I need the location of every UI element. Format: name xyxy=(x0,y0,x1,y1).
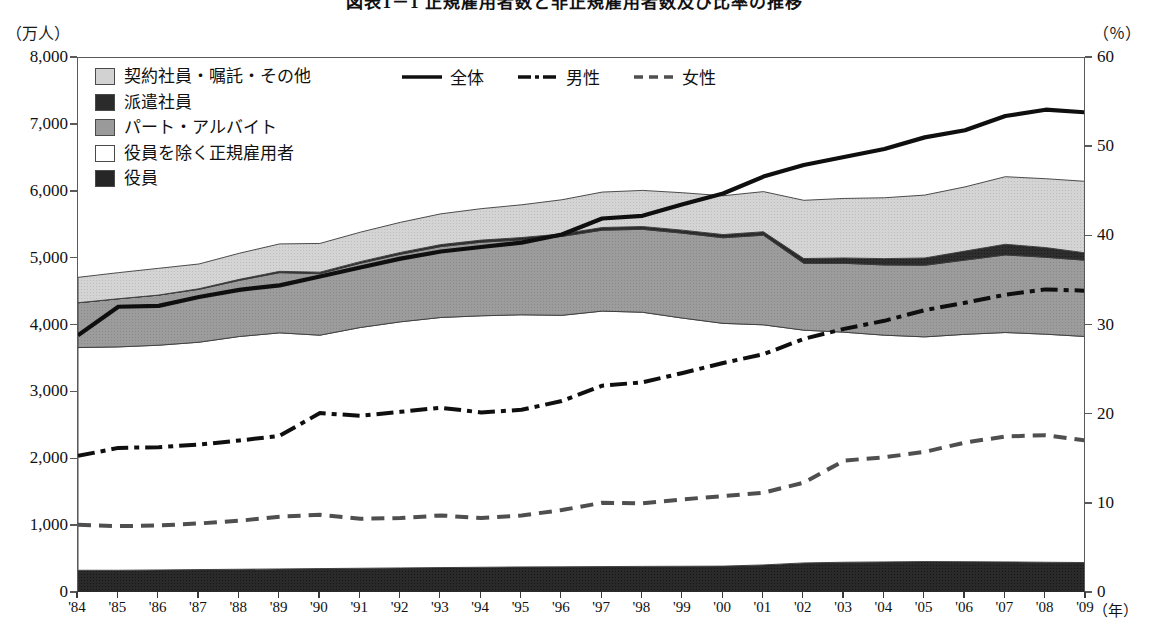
x-tick-mark xyxy=(238,592,239,598)
legend-line-dash-dot-icon xyxy=(518,72,558,82)
legend-swatch-icon xyxy=(95,145,115,162)
x-tick-mark xyxy=(883,592,884,598)
right-tick-label: 50 xyxy=(1097,136,1149,156)
left-tick-label: 7,000 xyxy=(0,114,68,134)
x-tick-mark xyxy=(439,592,440,598)
legend-areas: 契約社員・嘱託・その他派遣社員パート・アルバイト役員を除く正規雇用者役員 xyxy=(95,64,311,192)
x-tick-label: '91 xyxy=(350,599,368,616)
legend-item-派遣社員[interactable]: 派遣社員 xyxy=(95,90,311,116)
legend-item-label: 契約社員・嘱託・その他 xyxy=(124,64,311,90)
right-tick-mark xyxy=(1085,324,1092,326)
x-tick-mark xyxy=(601,592,602,598)
left-tick-label: 6,000 xyxy=(0,181,68,201)
x-tick-mark xyxy=(359,592,360,598)
left-axis-unit: （万人） xyxy=(6,20,70,44)
legend-line-dashed-icon xyxy=(634,72,674,82)
chart-title: 図表1－1 正規雇用者数と非正規雇用者数及び比率の推移 xyxy=(0,0,1149,10)
x-tick-mark xyxy=(1084,592,1085,598)
legend-line-label: 女性 xyxy=(682,64,716,89)
x-tick-mark xyxy=(560,592,561,598)
x-tick-mark xyxy=(1044,592,1045,598)
x-tick-label: '05 xyxy=(915,599,933,616)
legend-item-役員を除く正規雇用者[interactable]: 役員を除く正規雇用者 xyxy=(95,141,311,167)
x-tick-mark xyxy=(278,592,279,598)
right-tick-mark xyxy=(1085,145,1092,147)
right-tick-label: 40 xyxy=(1097,225,1149,245)
left-tick-mark xyxy=(70,524,77,526)
x-tick-mark xyxy=(117,592,118,598)
legend-line-solid-icon xyxy=(402,72,442,82)
x-tick-mark xyxy=(480,592,481,598)
x-tick-mark xyxy=(520,592,521,598)
x-tick-label: '02 xyxy=(794,599,812,616)
x-tick-mark xyxy=(681,592,682,598)
legend-swatch-icon xyxy=(95,170,115,187)
x-tick-label: '09 xyxy=(1076,599,1094,616)
right-tick-label: 10 xyxy=(1097,493,1149,513)
right-tick-mark xyxy=(1085,591,1092,593)
x-tick-label: '08 xyxy=(1036,599,1054,616)
x-tick-label: '97 xyxy=(592,599,610,616)
right-tick-mark xyxy=(1085,235,1092,237)
x-tick-label: '01 xyxy=(754,599,772,616)
x-tick-mark xyxy=(802,592,803,598)
x-tick-mark xyxy=(318,592,319,598)
x-tick-label: '04 xyxy=(875,599,893,616)
x-tick-label: '92 xyxy=(391,599,409,616)
legend-swatch-icon xyxy=(95,94,115,111)
legend-item-label: 派遣社員 xyxy=(124,90,192,116)
legend-item-label: 役員 xyxy=(124,166,158,192)
x-tick-mark xyxy=(842,592,843,598)
x-tick-mark xyxy=(762,592,763,598)
legend-line-item-男性[interactable]: 男性 xyxy=(518,64,600,89)
left-tick-label: 3,000 xyxy=(0,381,68,401)
x-tick-label: '95 xyxy=(512,599,530,616)
legend-item-label: パート・アルバイト xyxy=(124,115,277,141)
right-tick-label: 30 xyxy=(1097,315,1149,335)
x-tick-label: '89 xyxy=(270,599,288,616)
legend-item-契約社員・嘱託・その他[interactable]: 契約社員・嘱託・その他 xyxy=(95,64,311,90)
x-tick-mark xyxy=(963,592,964,598)
x-tick-label: '88 xyxy=(229,599,247,616)
left-tick-label: 5,000 xyxy=(0,248,68,268)
x-axis-unit: （年） xyxy=(1093,599,1138,620)
right-axis-unit: （％） xyxy=(1093,20,1141,44)
left-tick-mark xyxy=(70,123,77,125)
x-tick-mark xyxy=(197,592,198,598)
x-tick-label: '96 xyxy=(552,599,570,616)
x-tick-label: '93 xyxy=(431,599,449,616)
x-tick-label: '07 xyxy=(996,599,1014,616)
left-tick-mark xyxy=(70,324,77,326)
x-tick-mark xyxy=(76,592,77,598)
x-tick-label: '87 xyxy=(189,599,207,616)
left-tick-mark xyxy=(70,190,77,192)
x-tick-mark xyxy=(399,592,400,598)
x-tick-label: '06 xyxy=(955,599,973,616)
x-tick-mark xyxy=(722,592,723,598)
x-tick-mark xyxy=(1004,592,1005,598)
x-tick-mark xyxy=(157,592,158,598)
legend-lines: 全体男性女性 xyxy=(402,64,716,90)
legend-line-label: 男性 xyxy=(566,64,600,89)
left-tick-mark xyxy=(70,56,77,58)
x-tick-label: '00 xyxy=(713,599,731,616)
x-tick-label: '03 xyxy=(834,599,852,616)
right-tick-mark xyxy=(1085,413,1092,415)
x-tick-mark xyxy=(923,592,924,598)
x-tick-label: '86 xyxy=(149,599,167,616)
right-tick-mark xyxy=(1085,502,1092,504)
left-tick-mark xyxy=(70,391,77,393)
legend-item-役員[interactable]: 役員 xyxy=(95,166,311,192)
legend-line-item-女性[interactable]: 女性 xyxy=(634,64,716,89)
right-tick-label: 20 xyxy=(1097,404,1149,424)
left-tick-mark xyxy=(70,458,77,460)
x-tick-label: '94 xyxy=(471,599,489,616)
legend-item-パート・アルバイト[interactable]: パート・アルバイト xyxy=(95,115,311,141)
legend-swatch-icon xyxy=(95,68,115,85)
legend-swatch-icon xyxy=(95,119,115,136)
left-tick-label: 1,000 xyxy=(0,515,68,535)
left-tick-label: 0 xyxy=(0,582,68,602)
left-tick-label: 8,000 xyxy=(0,47,68,67)
legend-line-item-全体[interactable]: 全体 xyxy=(402,64,484,89)
right-tick-label: 60 xyxy=(1097,47,1149,67)
